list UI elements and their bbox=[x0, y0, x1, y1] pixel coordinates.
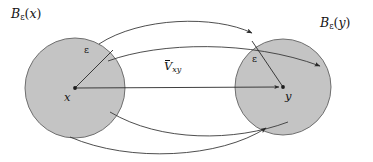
ball-x-label: Bε(x) bbox=[11, 8, 41, 22]
vector-xy-label-subscript: xy bbox=[172, 65, 181, 74]
radius-y-epsilon-label: ε bbox=[252, 54, 257, 64]
point-x-dot bbox=[73, 86, 77, 90]
figure-container: Bε(x) Bε(y) ε ε x y Vxy bbox=[0, 0, 373, 162]
diagram-canvas bbox=[0, 0, 373, 162]
radius-x-epsilon-label: ε bbox=[84, 45, 89, 55]
curve-upper-outer bbox=[99, 21, 252, 44]
ball-y-label-arg: (y) bbox=[334, 15, 351, 30]
point-x-label: x bbox=[64, 92, 71, 104]
ball-y-label-base: B bbox=[320, 15, 329, 30]
point-y-label: y bbox=[285, 91, 292, 103]
vector-xy-label-base: V bbox=[164, 61, 172, 73]
ball-y-label: Bε(y) bbox=[320, 17, 350, 31]
ball-x-label-base: B bbox=[11, 6, 20, 21]
ball-x-label-arg: (x) bbox=[25, 6, 42, 21]
vector-xy-label: Vxy bbox=[164, 61, 181, 74]
